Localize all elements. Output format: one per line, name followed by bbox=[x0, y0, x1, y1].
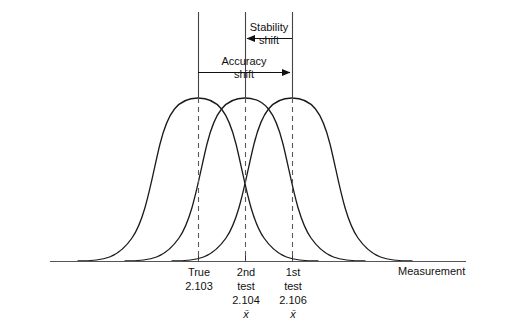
accuracy-shift-label-line1: Accuracy bbox=[221, 55, 266, 68]
second-test-mean-symbol: x̄ bbox=[232, 307, 260, 321]
accuracy-shift-label: Accuracy shift bbox=[221, 55, 266, 81]
accuracy-shift-label-line2: shift bbox=[221, 68, 266, 81]
stability-shift-label: Stability shift bbox=[250, 21, 289, 47]
tick-label-true-value: True 2.103 bbox=[185, 265, 213, 293]
tick-label-first-test-line2: test bbox=[279, 279, 307, 293]
tick-label-true-line1: True bbox=[185, 265, 213, 279]
tick-label-first-test-value: 2.106 bbox=[279, 293, 307, 307]
tick-label-second-test-value: 2.104 bbox=[232, 293, 260, 307]
stability-shift-label-line1: Stability bbox=[250, 21, 289, 34]
first-test-mean-symbol: x̄ bbox=[279, 307, 307, 321]
stability-shift-label-line2: shift bbox=[250, 34, 289, 47]
tick-label-second-test-line1: 2nd bbox=[232, 265, 260, 279]
tick-label-first-test: 1st test 2.106 x̄ bbox=[279, 265, 307, 321]
tick-label-true-value: 2.103 bbox=[185, 279, 213, 293]
tick-label-first-test-line1: 1st bbox=[279, 265, 307, 279]
distribution-shift-figure: Stability shift Accuracy shift True 2.10… bbox=[0, 0, 512, 329]
tick-label-second-test: 2nd test 2.104 x̄ bbox=[232, 265, 260, 321]
measurement-axis-title: Measurement bbox=[398, 265, 465, 278]
tick-label-second-test-line2: test bbox=[232, 279, 260, 293]
